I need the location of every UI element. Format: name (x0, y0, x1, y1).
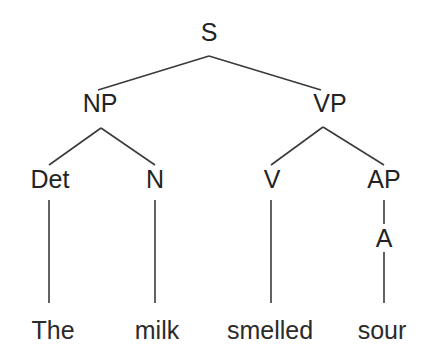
tree-edge-s-vp (209, 56, 321, 90)
tree-node-v: V (264, 167, 281, 192)
tree-edge-vp-v (271, 127, 323, 165)
tree-node-s: S (201, 20, 218, 45)
tree-node-a: A (376, 226, 393, 251)
tree-edge-s-np (98, 56, 209, 90)
tree-leaf-w2: milk (135, 318, 179, 343)
tree-node-ap: AP (367, 167, 400, 192)
tree-leaf-w3: smelled (227, 318, 313, 343)
tree-edge-np-n (101, 128, 155, 165)
tree-edge-vp-ap (323, 127, 384, 165)
tree-node-det: Det (31, 167, 70, 192)
syntax-tree-figure: SNPVPDetNVAPA Themilksmelledsour (0, 0, 431, 355)
tree-edge-np-det (49, 128, 101, 165)
tree-leaf-w1: The (31, 318, 74, 343)
tree-node-n: N (146, 167, 164, 192)
tree-node-np: NP (83, 91, 118, 116)
tree-leaf-w4: sour (358, 318, 407, 343)
tree-node-vp: VP (313, 91, 346, 116)
